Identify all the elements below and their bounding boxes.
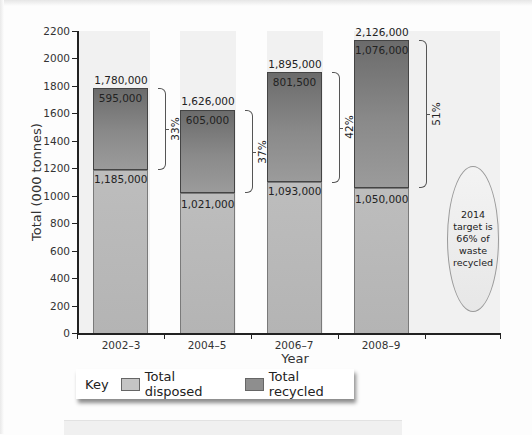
recycled-value: 605,000 [181, 114, 234, 126]
recycled-value: 801,500 [268, 76, 321, 88]
segment-recycled: 801,500 [267, 72, 322, 182]
y-axis [77, 31, 79, 334]
y-axis-title: Total (000 tonnes) [29, 123, 44, 241]
x-tick-label: 2004–5 [172, 339, 242, 351]
target-line: waste [450, 245, 496, 257]
y-tick-label: 600 [30, 245, 70, 257]
bar-total-label: 2,126,000 [347, 26, 417, 38]
recycled-percent: 51% [430, 102, 442, 125]
x-tick [338, 334, 339, 339]
target-line: 2014 [450, 209, 496, 221]
left-shadow [0, 0, 4, 434]
y-tick-label: 200 [30, 300, 70, 312]
disposed-value: 1,021,000 [181, 198, 234, 210]
legend: Key Total disposed Total recycled [76, 369, 354, 399]
percent-bracket [158, 88, 166, 170]
y-tick-label: 1600 [30, 107, 70, 119]
target-line: target is [450, 221, 496, 233]
y-tick-label: 0 [30, 327, 70, 339]
target-annotation: 2014 target is 66% of waste recycled [447, 166, 499, 312]
segment-disposed: 1,093,000 [267, 182, 322, 333]
disposed-value: 1,050,000 [355, 193, 408, 205]
bar-total-label: 1,626,000 [173, 95, 243, 107]
x-axis [77, 333, 501, 335]
x-tick-label: 2002–3 [86, 339, 156, 351]
segment-disposed: 1,021,000 [180, 193, 235, 333]
x-tick [251, 334, 252, 339]
target-text: 2014 target is 66% of waste recycled [450, 209, 496, 269]
disposed-value: 1,093,000 [268, 185, 321, 197]
y-tick-label: 2200 [30, 25, 70, 37]
x-axis-title: Year [255, 351, 335, 366]
percent-bracket [332, 72, 340, 183]
y-tick-label: 1800 [30, 80, 70, 92]
x-tick-label: 2006–7 [259, 339, 329, 351]
recycled-percent: 37% [256, 140, 268, 163]
recycled-percent: 42% [343, 115, 355, 138]
bottom-panel-edge [64, 420, 402, 435]
legend-label-disposed: Total disposed [145, 369, 233, 399]
legend-key-label: Key [85, 377, 109, 392]
y-tick-label: 400 [30, 272, 70, 284]
top-shadow [0, 0, 532, 6]
percent-bracket [245, 110, 253, 193]
percent-bracket [419, 40, 427, 188]
recycled-value: 1,076,000 [355, 44, 408, 56]
legend-swatch-disposed [121, 378, 140, 391]
segment-recycled: 1,076,000 [354, 40, 409, 188]
segment-recycled: 595,000 [93, 88, 148, 170]
legend-label-recycled: Total recycled [269, 369, 354, 399]
x-tick-label: 2008–9 [346, 339, 416, 351]
recycled-percent: 33% [169, 117, 181, 140]
bar-total-label: 1,895,000 [260, 58, 330, 70]
target-line: 66% of [450, 233, 496, 245]
segment-recycled: 605,000 [180, 110, 235, 193]
x-tick [425, 334, 426, 339]
legend-swatch-recycled [245, 378, 264, 391]
target-line: recycled [450, 257, 496, 269]
recycled-value: 595,000 [94, 92, 147, 104]
x-tick [77, 334, 78, 339]
bar-total-label: 1,780,000 [86, 74, 156, 86]
disposed-value: 1,185,000 [94, 173, 147, 185]
y-tick-label: 2000 [30, 52, 70, 64]
x-tick [164, 334, 165, 339]
segment-disposed: 1,185,000 [93, 170, 148, 333]
segment-disposed: 1,050,000 [354, 188, 409, 333]
x-tick [500, 334, 501, 339]
